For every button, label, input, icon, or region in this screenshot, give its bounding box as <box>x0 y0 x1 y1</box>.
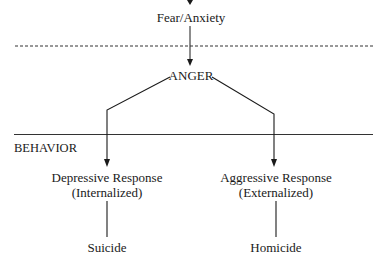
depressive-subtitle: (Internalized) <box>52 186 163 200</box>
node-homicide: Homicide <box>250 241 301 255</box>
node-suicide: Suicide <box>88 241 127 255</box>
node-fear-anxiety: Fear/Anxiety <box>157 11 226 25</box>
arrow-anger-to-aggressive <box>212 77 277 167</box>
node-depressive-response: Depressive Response (Internalized) <box>52 171 163 200</box>
aggressive-subtitle: (Externalized) <box>220 186 332 200</box>
diagram-connectors <box>0 0 383 260</box>
node-aggressive-response: Aggressive Response (Externalized) <box>220 171 332 200</box>
node-anger: ANGER <box>169 69 214 83</box>
aggressive-title: Aggressive Response <box>220 171 332 185</box>
depressive-title: Depressive Response <box>52 171 163 185</box>
arrow-top-to-fear <box>187 0 193 5</box>
arrow-anger-to-depressive <box>104 77 170 167</box>
section-label-behavior: BEHAVIOR <box>14 141 77 155</box>
